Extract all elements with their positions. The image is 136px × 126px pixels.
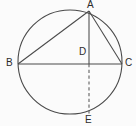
geometry-figure: A B C D E bbox=[0, 0, 136, 126]
vertex-label-b: B bbox=[6, 58, 13, 68]
chord-ac-line bbox=[89, 11, 122, 64]
vertex-label-c: C bbox=[125, 58, 132, 68]
vertex-label-e: E bbox=[85, 115, 92, 125]
vertex-label-a: A bbox=[87, 0, 94, 10]
vertex-label-d: D bbox=[79, 47, 86, 57]
geometry-canvas bbox=[0, 0, 136, 126]
